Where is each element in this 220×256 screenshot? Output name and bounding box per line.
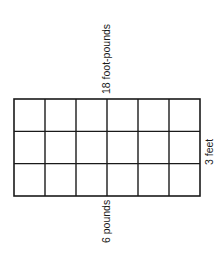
label-bottom: 6 pounds bbox=[100, 200, 112, 243]
label-right: 3 feet bbox=[203, 139, 215, 165]
grid bbox=[14, 99, 200, 196]
label-top: 18 foot-pounds bbox=[100, 24, 112, 94]
area-model-diagram: 18 foot-pounds 6 pounds 3 feet bbox=[0, 0, 220, 256]
